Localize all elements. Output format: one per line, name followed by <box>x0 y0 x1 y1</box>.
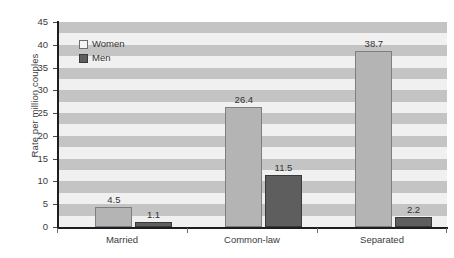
bar-value-label: 26.4 <box>225 94 262 105</box>
y-axis-tick-label: 0 <box>43 221 48 232</box>
legend-label-women: Women <box>92 39 125 49</box>
x-axis-tick-mark <box>317 228 318 233</box>
legend-swatch-women-icon <box>79 40 88 49</box>
bar-men-married <box>135 222 172 227</box>
legend-item-men: Men <box>79 52 125 64</box>
y-axis-tick-label: 25 <box>37 107 48 118</box>
x-axis-tick-mark <box>57 228 58 233</box>
bar-value-label: 2.2 <box>395 204 432 215</box>
y-axis-tick-label: 15 <box>37 153 48 164</box>
bar-men-separated <box>395 217 432 227</box>
y-axis-tick-label: 45 <box>37 16 48 27</box>
bar-value-label: 1.1 <box>135 209 172 220</box>
x-axis-category-label: Married <box>106 234 138 245</box>
y-axis-tick-label: 35 <box>37 62 48 73</box>
legend-item-women: Women <box>79 38 125 50</box>
x-axis-tick-mark <box>446 228 447 233</box>
bar-value-label: 11.5 <box>265 162 302 173</box>
legend-swatch-men-icon <box>79 54 88 63</box>
x-axis-tick-mark <box>187 228 188 233</box>
bar-value-label: 38.7 <box>355 38 392 49</box>
y-axis: 051015202530354045 <box>0 0 58 258</box>
y-axis-tick-label: 10 <box>37 175 48 186</box>
bar-women-married <box>95 207 132 228</box>
y-axis-tick-label: 5 <box>43 198 48 209</box>
y-axis-tick-label: 40 <box>37 39 48 50</box>
bar-men-common-law <box>265 175 302 227</box>
y-axis-tick-label: 30 <box>37 84 48 95</box>
legend-label-men: Men <box>92 53 110 63</box>
x-axis-category-label: Common-law <box>224 234 280 245</box>
bar-chart: Rate per million couples 051015202530354… <box>0 0 454 258</box>
legend: Women Men <box>79 38 125 64</box>
y-axis-tick-label: 20 <box>37 130 48 141</box>
bar-women-common-law <box>225 107 262 227</box>
x-axis-labels: MarriedCommon-lawSeparated <box>57 234 447 254</box>
bar-value-label: 4.5 <box>95 194 132 205</box>
x-axis-category-label: Separated <box>360 234 404 245</box>
bar-women-separated <box>355 51 392 227</box>
